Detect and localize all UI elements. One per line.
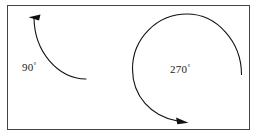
two-seventy-degree-arrowhead-icon (176, 118, 189, 125)
ninety-degree-label: 90° (22, 61, 37, 73)
ninety-degree-label-value: 90 (22, 61, 34, 73)
ninety-degree-arc-path (34, 18, 86, 79)
two-seventy-degree-symbol: ° (187, 63, 190, 71)
figure-border (8, 6, 250, 130)
two-seventy-degree-label-value: 270 (170, 63, 188, 75)
ninety-degree-arc-group (29, 14, 87, 79)
diagram-canvas: 90° 270° (0, 0, 258, 138)
geometry-figure: 90° 270° (0, 0, 258, 138)
ninety-degree-symbol: ° (34, 61, 37, 69)
two-seventy-degree-label: 270° (170, 63, 191, 75)
